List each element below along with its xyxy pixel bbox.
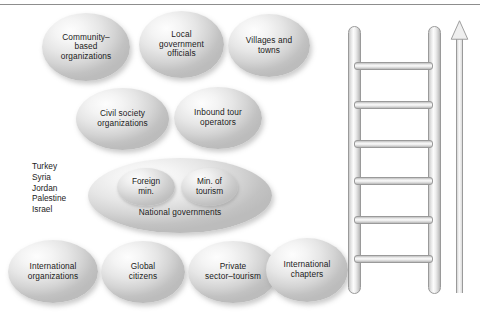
bubble-community-based-organizations[interactable]: Community– based organizations xyxy=(42,13,130,81)
bubble-label: Community– based organizations xyxy=(45,33,128,62)
bubble-international-chapters[interactable]: International chapters xyxy=(266,238,348,302)
diagram-canvas: Community– based organizations Local gov… xyxy=(0,0,480,313)
bubble-local-government-officials[interactable]: Local government officials xyxy=(139,11,224,78)
bubble-label: Global citizens xyxy=(104,262,183,281)
ladder-rung xyxy=(354,216,433,224)
bubble-label: Civil society organizations xyxy=(79,109,166,128)
bubble-label: Local government officials xyxy=(142,30,222,59)
bubble-label: International organizations xyxy=(11,262,96,281)
bubble-private-sector-tourism[interactable]: Private sector–tourism xyxy=(188,241,278,303)
bubble-villages-and-towns[interactable]: Villages and towns xyxy=(228,14,310,77)
bubble-international-organizations[interactable]: International organizations xyxy=(8,240,98,303)
bubble-global-citizens[interactable]: Global citizens xyxy=(101,241,185,303)
ladder-rung xyxy=(354,255,433,263)
ladder-rung xyxy=(354,62,433,70)
ladder-rung xyxy=(354,140,433,148)
national-governments-label: National governments xyxy=(94,208,267,218)
ladder-rung xyxy=(354,177,433,185)
bubble-label: Min. of tourism xyxy=(196,177,223,196)
bubble-foreign-ministry[interactable]: Foreign min. xyxy=(117,168,175,206)
bubble-label: Foreign min. xyxy=(132,177,160,196)
bubble-label: Inbound tour operators xyxy=(177,108,260,127)
ladder xyxy=(340,0,480,313)
ladder-rung xyxy=(354,101,433,109)
bubble-inbound-tour-operators[interactable]: Inbound tour operators xyxy=(174,87,262,149)
bubble-label: International chapters xyxy=(268,260,345,279)
up-arrow-shaft xyxy=(456,38,463,293)
bubble-ministry-of-tourism[interactable]: Min. of tourism xyxy=(181,168,238,206)
up-arrow-icon xyxy=(450,20,469,40)
bubble-label: Villages and towns xyxy=(230,36,307,55)
bubble-civil-society-organizations[interactable]: Civil society organizations xyxy=(76,88,169,150)
bubble-label: Private sector–tourism xyxy=(191,262,276,281)
bubble-national-governments[interactable]: National governments xyxy=(88,158,272,233)
country-list: Turkey Syria Jordan Palestine Israel xyxy=(32,161,66,215)
